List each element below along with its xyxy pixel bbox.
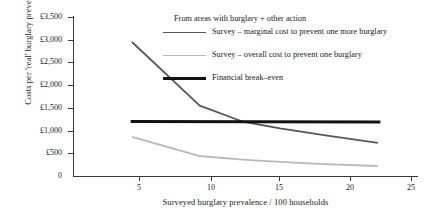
- series-line-overall: [132, 137, 378, 166]
- legend-entry-label: Financial break–even: [212, 73, 283, 82]
- chart-figure: Costs per 'real' burglary prevented £3,5…: [0, 0, 440, 220]
- legend-swatch-icon: [163, 32, 206, 33]
- legend-title: From areas with burglary + other action: [174, 14, 306, 23]
- legend-entry-label: Survey – overall cost to prevent one bur…: [212, 50, 362, 59]
- legend-entry-label: Survey – marginal cost to prevent one mo…: [212, 27, 387, 36]
- legend-swatch-icon: [163, 77, 206, 80]
- legend-swatch-icon: [163, 55, 206, 56]
